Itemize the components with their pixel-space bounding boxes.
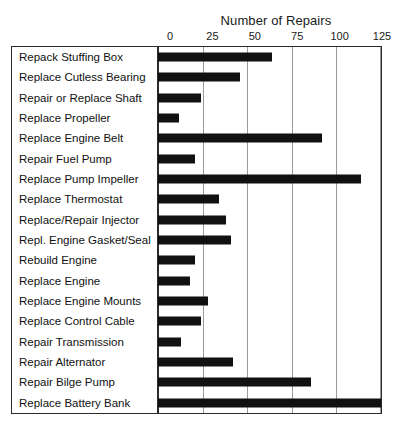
category-row: Rebuild Engine: [12, 250, 157, 270]
category-row: Repair Bilge Pump: [12, 372, 157, 392]
x-tick-label: 75: [291, 30, 303, 42]
category-row: Repack Stuffing Box: [12, 47, 157, 67]
category-label: Replace Cutless Bearing: [19, 71, 146, 84]
bar: [158, 215, 226, 224]
chart-frame: Repack Stuffing BoxReplace Cutless Beari…: [11, 46, 382, 414]
bar-row: [158, 271, 381, 291]
category-row: Replace Engine Belt: [12, 128, 157, 148]
bar: [158, 73, 240, 82]
category-label: Replace Engine Mounts: [19, 295, 141, 308]
x-tick-label: 25: [206, 30, 218, 42]
category-label: Repair Bilge Pump: [19, 376, 115, 389]
bar-row: [158, 291, 381, 311]
category-label: Replace Propeller: [19, 112, 110, 125]
category-row: Replace Thermostat: [12, 189, 157, 209]
category-label: Repair Fuel Pump: [19, 152, 112, 165]
bar: [158, 53, 272, 62]
category-label: Rebuild Engine: [19, 254, 97, 267]
bar-row: [158, 230, 381, 250]
category-label: Repair Transmission: [19, 335, 124, 348]
bar-chart: Number of Repairs 0255075100125 Repack S…: [0, 0, 399, 424]
category-label: Replace Engine: [19, 274, 100, 287]
bar: [158, 276, 190, 285]
bar: [158, 114, 179, 123]
bar: [158, 398, 381, 407]
category-row: Replace/Repair Injector: [12, 210, 157, 230]
category-label: Replace Pump Impeller: [19, 173, 139, 186]
bar-row: [158, 189, 381, 209]
bar: [158, 195, 219, 204]
category-label: Repl. Engine Gasket/Seal: [19, 234, 151, 247]
bar-row: [158, 372, 381, 392]
category-row: Replace Propeller: [12, 108, 157, 128]
bar: [158, 134, 322, 143]
category-label: Replace/Repair Injector: [19, 213, 139, 226]
bar-row: [158, 169, 381, 189]
plot-area: [158, 47, 381, 413]
bar-row: [158, 393, 381, 413]
bar: [158, 337, 181, 346]
bar-row: [158, 47, 381, 67]
category-label: Replace Thermostat: [19, 193, 122, 206]
category-row: Replace Engine: [12, 271, 157, 291]
category-row: Replace Control Cable: [12, 311, 157, 331]
bar-row: [158, 108, 381, 128]
category-row: Repair Transmission: [12, 332, 157, 352]
category-row: Replace Battery Bank: [12, 393, 157, 413]
category-row: Replace Cutless Bearing: [12, 67, 157, 87]
bar-row: [158, 311, 381, 331]
bar: [158, 358, 233, 367]
category-row: Replace Engine Mounts: [12, 291, 157, 311]
category-label: Repair or Replace Shaft: [19, 91, 142, 104]
bar-row: [158, 210, 381, 230]
x-tick-label: 50: [249, 30, 261, 42]
category-labels-column: Repack Stuffing BoxReplace Cutless Beari…: [12, 47, 158, 413]
category-label: Replace Engine Belt: [19, 132, 123, 145]
category-row: Repair Fuel Pump: [12, 149, 157, 169]
bar: [158, 175, 361, 184]
x-tick-label: 100: [330, 30, 348, 42]
category-row: Repl. Engine Gasket/Seal: [12, 230, 157, 250]
category-label: Repack Stuffing Box: [19, 51, 123, 64]
bar: [158, 297, 208, 306]
bar: [158, 93, 201, 102]
bar-row: [158, 250, 381, 270]
bar: [158, 256, 195, 265]
bar: [158, 154, 195, 163]
bar-row: [158, 352, 381, 372]
bar-row: [158, 128, 381, 148]
category-row: Repair Alternator: [12, 352, 157, 372]
bar-row: [158, 149, 381, 169]
bar-row: [158, 332, 381, 352]
bar: [158, 236, 231, 245]
bar-row: [158, 88, 381, 108]
category-label: Repair Alternator: [19, 356, 105, 369]
bar-row: [158, 67, 381, 87]
x-axis-tick-labels: 0255075100125: [170, 30, 382, 44]
category-label: Replace Battery Bank: [19, 396, 130, 409]
x-tick-label: 0: [167, 30, 173, 42]
category-label: Replace Control Cable: [19, 315, 135, 328]
bar: [158, 317, 201, 326]
category-row: Repair or Replace Shaft: [12, 88, 157, 108]
x-tick-label: 125: [373, 30, 391, 42]
category-row: Replace Pump Impeller: [12, 169, 157, 189]
bar: [158, 378, 311, 387]
chart-title: Number of Repairs: [170, 13, 382, 28]
